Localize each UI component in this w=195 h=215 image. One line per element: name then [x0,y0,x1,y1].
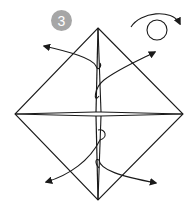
step-number-badge: 3 [51,10,72,31]
origami-diagram [0,0,195,215]
horizontal-flap [15,112,183,116]
turn-over-icon [131,14,180,40]
arrow-up-left [44,46,101,69]
arrow-up-right [95,52,155,98]
vertical-flap [96,28,101,200]
